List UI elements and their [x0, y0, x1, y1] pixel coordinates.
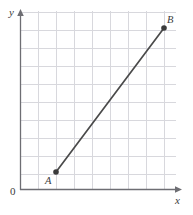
plot-canvas [0, 0, 193, 215]
point-b-label: B [167, 15, 173, 26]
coordinate-plane-figure: y x 0 A B [0, 0, 193, 215]
point-a-label: A [45, 176, 51, 187]
point-a-marker[interactable] [53, 169, 59, 175]
x-axis-arrow-icon [175, 186, 182, 192]
grid-lines [20, 11, 176, 190]
point-b-marker[interactable] [161, 25, 167, 31]
y-axis-label: y [9, 7, 14, 18]
x-axis-label: x [175, 195, 180, 206]
origin-label: 0 [10, 186, 16, 197]
